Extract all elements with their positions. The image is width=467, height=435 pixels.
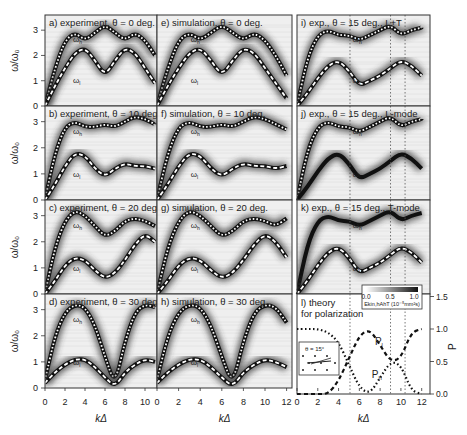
x-tick: 8 — [241, 397, 246, 407]
panel-label: i) exp., θ = 15 deg., L+T — [301, 17, 402, 28]
panel-label: b) experiment, θ = 10 deg. — [49, 108, 160, 119]
x-tick: 8 — [378, 397, 383, 407]
panel-label: e) simulation, θ = 0 deg. — [161, 17, 263, 28]
panel-k: k) exp., θ = 15 deg., T-modeωhωl — [297, 200, 430, 294]
x-tick: 0 — [294, 397, 299, 407]
y-tick: 3 — [33, 211, 38, 221]
panel-label: g) simulation, θ = 20 deg. — [161, 202, 268, 213]
panel-i: i) exp., θ = 15 deg., L+Tωhωl — [297, 15, 430, 106]
colorbar-tick: 0.5 — [385, 293, 394, 300]
panel-label: c) experiment, θ = 20 deg. — [49, 202, 160, 213]
x-tick: 6 — [102, 397, 107, 407]
y-tick: 2 — [33, 143, 38, 153]
x-tick: 2 — [315, 397, 320, 407]
y-tick: 1 — [33, 76, 38, 86]
x-tick: 10 — [396, 397, 406, 407]
x-tick: 12 — [282, 397, 292, 407]
y-axis-label: ω/ω₀ — [9, 236, 20, 259]
x-axis-label: kΔ — [95, 413, 107, 424]
lattice-inset: θ = 15° — [299, 342, 339, 375]
panel-j: j) exp., θ = 15 deg., L-modeωhωl — [297, 106, 430, 200]
x-tick: 4 — [336, 397, 341, 407]
x-tick: 4 — [82, 397, 87, 407]
panel-l-theory: l) theoryfor polarizationPlPhθ = 15°0.00… — [297, 285, 430, 394]
colorbar-tick: 0.0 — [361, 293, 370, 300]
x-axis-label: kΔ — [358, 413, 370, 424]
y-tick: 0 — [33, 383, 38, 393]
x-tick: 12 — [417, 397, 427, 407]
x-tick: 10 — [140, 397, 150, 407]
colorbar-label: Ekin,hAhT (10⁻⁵mm²s) — [364, 301, 420, 307]
panel-label: f) simulation, θ = 10 deg. — [161, 108, 265, 119]
panel-c: c) experiment, θ = 20 deg.ωhωl — [45, 200, 160, 294]
p-tick: 0.5 — [436, 357, 448, 367]
y-axis-label: ω/ω₀ — [9, 142, 20, 165]
x-tick: 2 — [62, 397, 67, 407]
panel-h: h) simulation, θ = 30 deg.ωhωl — [157, 294, 292, 388]
panel-b: b) experiment, θ = 10 deg.ωhωl — [45, 106, 160, 200]
panel-d: d) experiment, θ = 30 deg.ωhωl — [45, 294, 160, 388]
y-axis-label: ω/ω₀ — [9, 49, 20, 72]
y-tick: 0 — [33, 289, 38, 299]
x-tick: 6 — [219, 397, 224, 407]
y-tick: 2 — [33, 331, 38, 341]
y-tick: 0 — [33, 195, 38, 205]
figure: a) experiment, θ = 0 deg.ωhωle) simulati… — [0, 0, 467, 435]
x-tick: 4 — [198, 397, 203, 407]
y-tick: 1 — [33, 263, 38, 273]
panel-label: h) simulation, θ = 30 deg. — [161, 296, 268, 307]
inset-theta: θ = 15° — [305, 346, 325, 352]
panel-g: g) simulation, θ = 20 deg.ωhωl — [157, 200, 292, 294]
panel-label: k) exp., θ = 15 deg., T-mode — [301, 202, 420, 213]
theory-label-1: l) theory — [301, 297, 336, 308]
panel-f: f) simulation, θ = 10 deg.ωhωl — [157, 106, 292, 200]
x-tick: 6 — [357, 397, 362, 407]
x-tick: 8 — [122, 397, 127, 407]
panel-e: e) simulation, θ = 0 deg.ωhωl — [157, 15, 292, 106]
x-axis-label: kΔ — [219, 413, 231, 424]
y-tick: 1 — [33, 169, 38, 179]
panel-label: j) exp., θ = 15 deg., L-mode — [300, 108, 417, 119]
y-tick: 1 — [33, 357, 38, 367]
p-tick: 1.5 — [436, 292, 448, 302]
panel-a: a) experiment, θ = 0 deg.ωhωl — [45, 15, 157, 106]
y-tick: 0 — [33, 101, 38, 111]
p-axis-label: P — [447, 343, 458, 350]
panel-label: a) experiment, θ = 0 deg. — [49, 17, 155, 28]
colorbar: 0.00.51.0Ekin,hAhT (10⁻⁵mm²s) — [361, 285, 422, 309]
p-tick: 1.0 — [436, 324, 448, 334]
y-tick: 2 — [33, 237, 38, 247]
y-tick: 3 — [33, 25, 38, 35]
x-tick: 0 — [154, 397, 159, 407]
colorbar-tick: 1.0 — [409, 293, 418, 300]
theory-label-2: for polarization — [301, 308, 363, 319]
p-tick: 0.0 — [436, 389, 448, 399]
panel-label: d) experiment, θ = 30 deg. — [49, 296, 160, 307]
x-tick: 2 — [176, 397, 181, 407]
x-tick: 10 — [260, 397, 270, 407]
y-axis-label: ω/ω₀ — [9, 330, 20, 353]
y-tick: 3 — [33, 305, 38, 315]
y-tick: 2 — [33, 50, 38, 60]
x-tick: 0 — [42, 397, 47, 407]
y-tick: 3 — [33, 117, 38, 127]
